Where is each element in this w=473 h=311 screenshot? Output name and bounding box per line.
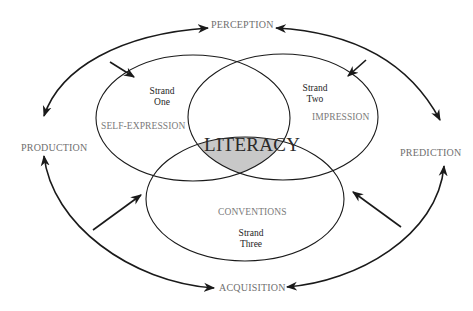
arrow-into-strand-two [348,60,366,76]
strand-one-line1: Strand [137,86,187,97]
strand-two-name: Strand Two [290,83,340,105]
arc-to-perception-right [276,28,440,120]
strand-three-line1: Strand [226,228,276,239]
production-label: PRODUCTION [21,143,87,153]
strand-two-line1: Strand [290,83,340,94]
arrow-into-strand-three-right [353,192,401,227]
literacy-diagram: PERCEPTION PRODUCTION PREDICTION ACQUISI… [0,0,473,311]
literacy-label: LITERACY [204,135,300,154]
prediction-label: PREDICTION [400,148,461,158]
strand-three-line2: Three [226,239,276,250]
acquisition-label: ACQUISITION [219,283,286,293]
strand-two-line2: Two [290,94,340,105]
arrow-into-strand-three-left [93,195,141,230]
strand-one-line2: One [137,97,187,108]
arc-to-acquisition-right [287,166,444,287]
self-expression-label: SELF-EXPRESSION [101,122,185,132]
conventions-label: CONVENTIONS [218,208,287,218]
arc-to-acquisition-left [44,156,214,288]
strand-three-name: Strand Three [226,228,276,250]
impression-label: IMPRESSION [312,113,370,123]
strand-one-name: Strand One [137,86,187,108]
perception-label: PERCEPTION [211,20,274,30]
